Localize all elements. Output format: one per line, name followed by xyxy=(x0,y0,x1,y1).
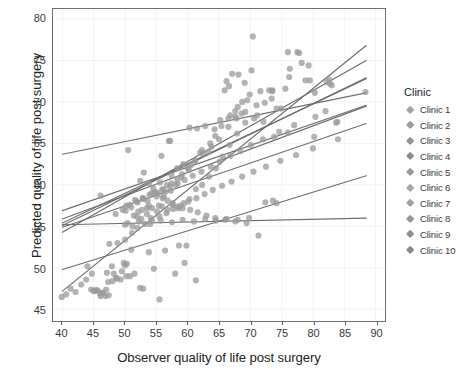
scatter-point xyxy=(168,172,174,178)
y-tick-label: 65 xyxy=(24,137,46,149)
regression-line xyxy=(62,78,366,226)
x-tick-mark xyxy=(93,322,94,325)
scatter-point xyxy=(135,208,141,214)
legend-items: Clinic 1Clinic 2Clinic 3Clinic 4Clinic 5… xyxy=(404,102,467,258)
scatter-point xyxy=(146,180,152,186)
scatter-point xyxy=(128,247,134,253)
x-axis-title: Observer quality of life post surgery xyxy=(52,350,386,365)
scatter-point xyxy=(217,117,223,123)
scatter-point xyxy=(193,186,199,192)
legend-item-label: Clinic 7 xyxy=(420,198,450,209)
legend-item[interactable]: Clinic 1 xyxy=(404,102,467,118)
scatter-point xyxy=(206,174,212,180)
scatter-point xyxy=(123,208,129,214)
legend-item[interactable]: Clinic 3 xyxy=(404,133,467,149)
scatter-point xyxy=(257,88,263,94)
scatter-point xyxy=(271,134,277,140)
x-tick-label: 45 xyxy=(80,327,106,339)
scatter-point xyxy=(296,50,302,56)
legend-item[interactable]: Clinic 4 xyxy=(404,149,467,165)
legend-diamond-icon xyxy=(404,119,417,132)
scatter-point xyxy=(212,133,218,139)
legend-diamond-icon xyxy=(404,181,417,194)
x-tick-mark xyxy=(156,322,157,325)
scatter-point xyxy=(248,142,254,148)
scatter-point xyxy=(326,76,332,82)
y-axis-tick-labels: 4550556065707580 xyxy=(20,0,46,376)
scatter-point xyxy=(190,173,196,179)
scatter-point xyxy=(282,86,288,92)
x-tick-mark xyxy=(377,322,378,325)
y-tick-label: 70 xyxy=(24,96,46,108)
scatter-point xyxy=(199,147,205,153)
scatter-point xyxy=(137,178,143,184)
legend-diamond-icon xyxy=(404,244,417,257)
scatter-point xyxy=(218,123,224,129)
scatter-point xyxy=(227,153,233,159)
scatter-point xyxy=(220,154,226,160)
y-tick-label: 60 xyxy=(24,179,46,191)
scatter-point xyxy=(181,177,187,183)
scatter-point xyxy=(242,120,248,126)
legend-item[interactable]: Clinic 2 xyxy=(404,118,467,134)
scatter-point xyxy=(114,240,120,246)
x-tick-label: 85 xyxy=(332,327,358,339)
legend-diamond-icon xyxy=(404,197,417,210)
scatter-point xyxy=(232,218,238,224)
scatter-point xyxy=(131,271,137,277)
scatter-point xyxy=(140,286,146,292)
scatter-point xyxy=(262,199,268,205)
scatter-point xyxy=(141,169,147,175)
scatter-point xyxy=(210,187,216,193)
scatter-point xyxy=(212,215,218,221)
legend-item[interactable]: Clinic 10 xyxy=(404,242,467,258)
scatter-point xyxy=(163,188,169,194)
scatter-point xyxy=(205,149,211,155)
scatter-point xyxy=(191,218,197,224)
scatter-point xyxy=(254,102,260,108)
x-tick-mark xyxy=(251,322,252,325)
scatter-point xyxy=(119,268,125,274)
scatter-point xyxy=(225,115,231,121)
scatter-point xyxy=(260,136,266,142)
scatter-point xyxy=(243,220,249,226)
legend-item-label: Clinic 2 xyxy=(420,120,450,131)
legend-item-label: Clinic 9 xyxy=(420,229,450,240)
scatter-point xyxy=(165,207,171,213)
y-tick-label: 55 xyxy=(24,221,46,233)
scatter-point xyxy=(287,66,293,72)
scatter-point xyxy=(286,74,292,80)
legend-item[interactable]: Clinic 8 xyxy=(404,211,467,227)
scatter-point xyxy=(254,112,260,118)
scatter-point xyxy=(78,281,84,287)
scatter-point xyxy=(312,114,318,120)
scatter-point xyxy=(154,208,160,214)
scatter-point xyxy=(274,200,280,206)
scatter-point xyxy=(83,276,89,282)
legend-item-label: Clinic 3 xyxy=(420,135,450,146)
scatter-point xyxy=(248,67,254,73)
scatter-point xyxy=(277,158,283,164)
scatter-point xyxy=(227,142,233,148)
scatter-point xyxy=(175,180,181,186)
x-tick-mark xyxy=(61,322,62,325)
scatter-point xyxy=(302,77,308,83)
legend-item[interactable]: Clinic 7 xyxy=(404,196,467,212)
legend-item[interactable]: Clinic 9 xyxy=(404,227,467,243)
scatter-point xyxy=(158,153,164,159)
scatter-point xyxy=(255,232,261,238)
x-tick-label: 80 xyxy=(301,327,327,339)
scatter-point xyxy=(167,183,173,189)
scatter-point xyxy=(229,71,235,77)
legend-item-label: Clinic 4 xyxy=(420,151,450,162)
scatter-point xyxy=(63,291,69,297)
scatter-point xyxy=(311,134,317,140)
scatter-point xyxy=(140,195,146,201)
scatter-point xyxy=(232,108,238,114)
scatter-point xyxy=(186,167,192,173)
scatter-point xyxy=(180,161,186,167)
scatter-point xyxy=(176,242,182,248)
scatter-point xyxy=(278,105,284,111)
legend-item[interactable]: Clinic 6 xyxy=(404,180,467,196)
legend-item[interactable]: Clinic 5 xyxy=(404,164,467,180)
